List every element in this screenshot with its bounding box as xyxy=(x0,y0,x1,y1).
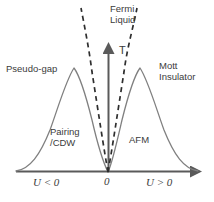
region-label-fermi-liquid: Fermi Liquid xyxy=(110,3,135,25)
phase-diagram-canvas xyxy=(0,0,214,202)
x-axis-label-negative: U < 0 xyxy=(33,176,59,188)
region-label-pseudo-gap: Pseudo-gap xyxy=(6,63,57,74)
region-label-afm: AFM xyxy=(129,134,149,145)
fermi-liquid-boundary-right xyxy=(108,8,137,172)
x-axis-origin-label: 0 xyxy=(104,175,110,187)
region-label-pairing-cdw: Pairing /CDW xyxy=(50,126,80,148)
y-axis-label: T xyxy=(119,44,126,56)
fermi-liquid-boundary-left xyxy=(81,8,108,172)
region-label-mott-insulator: Mott Insulator xyxy=(159,60,195,82)
right-dome-curve xyxy=(108,68,198,172)
left-dome-curve xyxy=(16,68,108,172)
x-axis-label-positive: U > 0 xyxy=(146,176,172,188)
phase-diagram-figure: Fermi Liquid Pseudo-gap Mott Insulator P… xyxy=(0,0,214,202)
